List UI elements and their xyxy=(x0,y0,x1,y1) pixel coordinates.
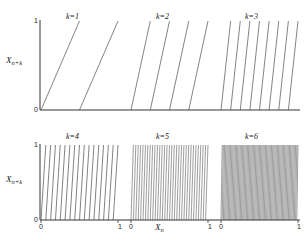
map-branch xyxy=(249,145,250,220)
map-branch xyxy=(297,145,298,220)
map-branch xyxy=(133,145,135,220)
map-branch xyxy=(263,145,264,220)
map-branch xyxy=(104,145,109,220)
map-branch xyxy=(270,145,271,220)
map-branch xyxy=(260,21,270,110)
map-branch xyxy=(253,145,254,220)
map-branch xyxy=(170,21,189,110)
map-branch xyxy=(269,145,270,220)
map-branch xyxy=(46,145,51,220)
map-branch xyxy=(279,145,280,220)
map-branch xyxy=(252,145,253,220)
curves-top xyxy=(41,21,298,110)
map-branch xyxy=(291,145,292,220)
map-branch xyxy=(231,21,241,110)
map-branch xyxy=(235,145,236,220)
map-branch xyxy=(150,21,169,110)
map-branch xyxy=(167,145,169,220)
map-branch xyxy=(153,145,155,220)
map-branch xyxy=(273,145,274,220)
map-branch xyxy=(232,145,233,220)
map-branch xyxy=(288,145,289,220)
map-branch xyxy=(51,145,56,220)
map-branch xyxy=(194,145,196,220)
panel-row-top: 1 0 Xn+k k=1 k=2 k=3 xyxy=(0,0,308,124)
map-branch xyxy=(191,145,193,220)
map-branch xyxy=(41,145,46,220)
map-branch xyxy=(246,145,247,220)
map-branch xyxy=(250,145,251,220)
map-branch xyxy=(282,145,283,220)
map-branch xyxy=(222,145,223,220)
map-branch xyxy=(136,145,138,220)
map-branch xyxy=(256,145,257,220)
map-branch xyxy=(251,145,252,220)
map-branch xyxy=(240,145,241,220)
map-branch xyxy=(225,145,226,220)
map-branch xyxy=(150,145,152,220)
map-branch xyxy=(155,145,157,220)
map-branch xyxy=(75,145,80,220)
map-branch xyxy=(162,145,164,220)
map-branch xyxy=(198,145,200,220)
map-branch xyxy=(84,145,89,220)
map-branch xyxy=(266,145,267,220)
map-branch xyxy=(206,145,208,220)
map-branch xyxy=(294,145,295,220)
map-branch xyxy=(231,145,232,220)
map-branch xyxy=(179,145,181,220)
map-branch xyxy=(238,145,239,220)
map-branch xyxy=(189,145,191,220)
map-branch xyxy=(157,145,159,220)
map-branch xyxy=(290,145,291,220)
map-branch xyxy=(288,21,298,110)
map-branch xyxy=(278,145,279,220)
map-branch xyxy=(279,21,289,110)
map-branch xyxy=(80,21,119,110)
map-branch xyxy=(237,145,238,220)
map-branch xyxy=(284,145,285,220)
map-branch xyxy=(65,145,70,220)
x-tick-bottom-p1-0: 0 xyxy=(34,223,48,230)
map-branch xyxy=(245,145,246,220)
map-branch xyxy=(243,145,244,220)
x-axis-label: Xn xyxy=(155,222,164,233)
map-branch xyxy=(260,145,261,220)
map-branch xyxy=(261,145,262,220)
map-branch xyxy=(227,145,228,220)
map-branch xyxy=(268,145,269,220)
x-axis-label-subscript: n xyxy=(161,226,164,233)
map-branch xyxy=(275,145,276,220)
plot-svg-top xyxy=(0,0,308,124)
map-branch xyxy=(182,145,184,220)
map-branch xyxy=(148,145,150,220)
map-branch xyxy=(281,145,282,220)
map-branch xyxy=(250,21,260,110)
map-branch xyxy=(99,145,104,220)
map-branch xyxy=(255,145,256,220)
map-branch xyxy=(170,145,172,220)
map-branch xyxy=(269,21,279,110)
map-branch xyxy=(189,21,208,110)
map-branch xyxy=(60,145,65,220)
map-branch xyxy=(285,145,286,220)
map-branch xyxy=(186,145,188,220)
map-branch xyxy=(221,21,231,110)
map-branch xyxy=(293,145,294,220)
panel-row-bottom: 1 0 Xn+k k=4 k=5 k=6 0 1 0 1 0 1 xyxy=(0,124,308,247)
map-branch xyxy=(240,21,250,110)
map-branch xyxy=(234,145,235,220)
map-branch xyxy=(160,145,162,220)
map-branch xyxy=(141,145,143,220)
map-branch xyxy=(184,145,186,220)
map-branch xyxy=(113,145,118,220)
map-branch xyxy=(276,145,277,220)
map-branch xyxy=(244,145,245,220)
map-branch xyxy=(264,145,265,220)
map-branch xyxy=(272,145,273,220)
plot-area-top xyxy=(0,0,308,124)
map-branch xyxy=(241,145,242,220)
map-branch xyxy=(223,145,224,220)
map-branch xyxy=(229,145,230,220)
map-branch xyxy=(89,145,94,220)
